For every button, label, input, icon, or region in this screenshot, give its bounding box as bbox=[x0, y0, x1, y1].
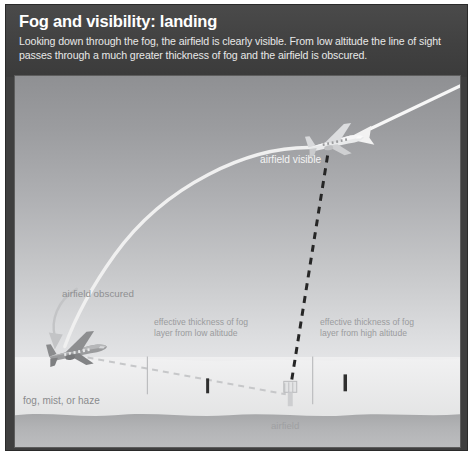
figure-root: Fog and visibility: landing Looking down… bbox=[0, 0, 473, 455]
callout-high-altitude: effective thickness of fog layer from hi… bbox=[314, 317, 414, 339]
flight-path-curve bbox=[370, 86, 460, 129]
label-airfield: airfield bbox=[271, 420, 299, 432]
scene-vector-layer bbox=[15, 76, 460, 447]
ground-surface bbox=[15, 414, 460, 447]
callout-high-altitude-line1: effective thickness of fog bbox=[320, 317, 414, 328]
label-airfield-obscured: airfield obscured bbox=[62, 288, 134, 300]
runway-marker-right-icon bbox=[344, 374, 347, 391]
header-band: Fog and visibility: landing Looking down… bbox=[6, 5, 467, 77]
label-airfield-visible: airfield visible bbox=[260, 154, 321, 166]
callout-low-altitude: effective thickness of fog layer from lo… bbox=[148, 317, 248, 339]
label-fog-mist-haze: fog, mist, or haze bbox=[23, 395, 100, 407]
page-subtitle: Looking down through the fog, the airfie… bbox=[19, 35, 459, 62]
callout-low-altitude-line1: effective thickness of fog bbox=[154, 317, 248, 328]
callout-low-altitude-line2: layer from low altitude bbox=[154, 328, 248, 339]
sight-line-high-altitude bbox=[290, 156, 328, 393]
callout-high-altitude-line2: layer from high altitude bbox=[320, 328, 414, 339]
diagram-scene: airfield visible airfield obscured effec… bbox=[14, 75, 461, 448]
page-title: Fog and visibility: landing bbox=[19, 12, 217, 31]
runway-marker-left-icon bbox=[206, 378, 209, 393]
figure-frame: Fog and visibility: landing Looking down… bbox=[5, 4, 468, 451]
